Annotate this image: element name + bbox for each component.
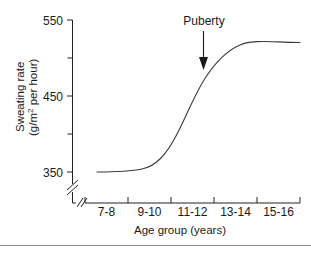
y-axis-title-line2: (g/m2 per hour) [26, 59, 39, 136]
y-axis-title-line1: Sweating rate [14, 62, 26, 132]
x-tick-label-7-8: 7-8 [98, 205, 116, 219]
puberty-label: Puberty [183, 14, 224, 28]
figure-container: 550 450 350 Sweating rate (g/m2 per hour… [0, 0, 311, 253]
puberty-arrow-head-icon [199, 57, 208, 70]
y-axis-title-line2-post: per hour) [27, 59, 39, 109]
x-tick-label-13-14: 13-14 [220, 205, 251, 219]
y-axis-title-line2-pre: (g/m [27, 113, 39, 136]
y-axis-group: 550 450 350 [43, 14, 78, 204]
sweating-rate-curve [97, 41, 300, 172]
x-tick-label-9-10: 9-10 [137, 205, 161, 219]
y-axis-title: Sweating rate (g/m2 per hour) [14, 59, 39, 136]
sweating-rate-line-chart: 550 450 350 Sweating rate (g/m2 per hour… [0, 0, 311, 253]
y-tick-label-350: 350 [43, 166, 63, 180]
y-tick-label-450: 450 [43, 90, 63, 104]
y-tick-label-550: 550 [43, 14, 63, 28]
x-tick-label-11-12: 11-12 [178, 205, 208, 219]
x-axis-title: Age group (years) [134, 224, 226, 236]
x-tick-label-15-16: 15-16 [263, 205, 294, 219]
x-axis-group: 7-8 9-10 11-12 13-14 15-16 Age group (ye… [73, 197, 301, 236]
